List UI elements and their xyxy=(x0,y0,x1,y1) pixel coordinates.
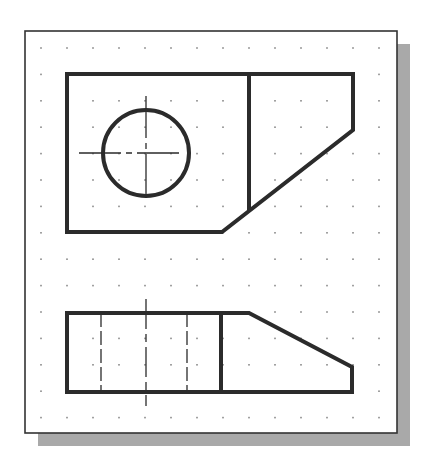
cad-drawing-canvas xyxy=(0,0,424,474)
